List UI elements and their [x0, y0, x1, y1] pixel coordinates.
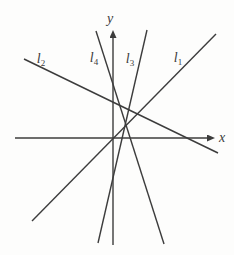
line-l4-label-sub: 4: [94, 57, 99, 67]
line-l3-label: l3: [126, 51, 135, 68]
line-l2-label: l2: [37, 51, 45, 68]
x-axis-label: x: [218, 130, 226, 145]
line-l1-label: l1: [174, 50, 182, 67]
line-l2-label-sub: 2: [41, 58, 46, 68]
y-axis-label: y: [105, 11, 114, 26]
line-l3-label-sub: 3: [130, 58, 135, 68]
line-l1-label-sub: 1: [178, 57, 183, 67]
lines-coordinate-figure: x y l1 l2 l3 l4: [0, 0, 234, 255]
figure-page: x y l1 l2 l3 l4: [0, 0, 234, 255]
line-l4-label: l4: [90, 50, 99, 67]
line-l2: [24, 59, 218, 153]
